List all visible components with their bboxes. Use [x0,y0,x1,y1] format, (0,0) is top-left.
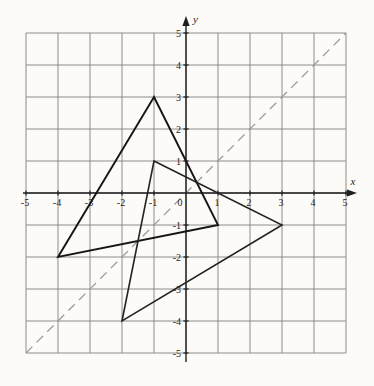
x-tick-label: 0 [178,197,183,208]
y-tick-label: 1 [176,156,181,167]
x-tick-label: 5 [343,197,348,208]
y-tick-label: 5 [176,28,181,39]
y-tick-label: -2 [173,252,181,263]
x-axis-arrowhead [347,189,357,196]
y-tick-label: 4 [176,60,181,71]
x-tick-label: -1 [149,197,157,208]
x-axis-label: x [350,175,356,187]
x-tick-label: 3 [279,197,284,208]
coordinate-plane-svg: -5-4-3-2-1012345-5-4-3-2-112345xy [0,0,374,386]
y-tick-label: -4 [173,316,181,327]
y-tick-label: -1 [173,220,181,231]
x-tick-label: -4 [53,197,61,208]
y-tick-label: -5 [173,348,181,359]
x-tick-label: 1 [215,197,220,208]
x-tick-label: 4 [311,197,316,208]
y-axis-arrowhead [182,16,189,26]
triangle-preimage [58,97,218,257]
y-tick-label: 2 [176,124,181,135]
x-tick-label: -2 [117,197,125,208]
x-tick-label: 2 [247,197,252,208]
y-tick-label: 3 [176,92,181,103]
coordinate-plane-figure: -5-4-3-2-1012345-5-4-3-2-112345xy [0,0,374,386]
y-axis-label: y [192,13,198,25]
triangle-image [122,161,282,321]
x-tick-label: -5 [21,197,29,208]
